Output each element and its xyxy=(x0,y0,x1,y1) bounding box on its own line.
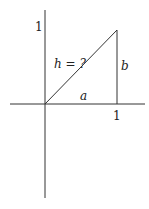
hypotenuse-label: h = ? xyxy=(54,57,86,71)
y-tick-label: 1 xyxy=(35,20,43,34)
triangle-diagram: 1 1 h = ? a b xyxy=(0,0,149,209)
horizontal-leg-label: a xyxy=(80,89,87,103)
vertical-leg-label: b xyxy=(121,59,129,73)
x-tick-label: 1 xyxy=(113,109,121,123)
